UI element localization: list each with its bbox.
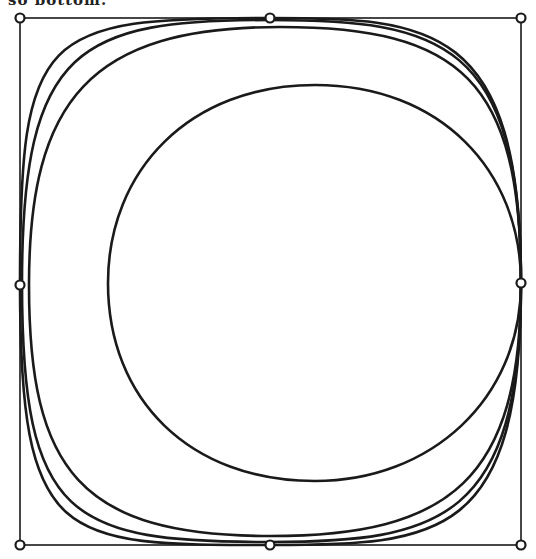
control-point-top-middle[interactable] [266, 14, 275, 23]
control-point-bottom-right[interactable] [517, 541, 526, 550]
control-frame [20, 18, 521, 545]
control-point-bottom-middle[interactable] [266, 541, 275, 550]
control-point-bottom-left[interactable] [16, 541, 25, 550]
curve-diagram [0, 0, 536, 559]
outer-curve-squarest [20, 18, 521, 545]
outer-curve-roundest [29, 27, 521, 536]
inner-circle [108, 85, 521, 481]
control-point-top-right[interactable] [517, 14, 526, 23]
outer-curve-middle [22, 20, 521, 542]
control-point-top-left[interactable] [16, 14, 25, 23]
control-point-right-middle[interactable] [517, 279, 526, 288]
control-point-left-middle[interactable] [16, 281, 25, 290]
